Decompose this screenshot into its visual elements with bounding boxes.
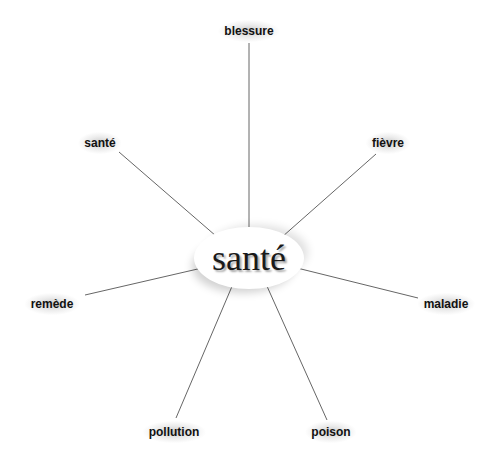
branch-label-sante: santé <box>78 132 121 154</box>
connector-fievre <box>282 154 376 237</box>
branch-label-remede: remède <box>25 293 80 315</box>
center-word: santé <box>194 227 304 289</box>
word-web-diagram: santé blessure santé fièvre remède malad… <box>0 0 493 467</box>
connector-sante <box>119 152 216 236</box>
center-node: santé <box>194 227 304 289</box>
connector-poison <box>266 284 327 420</box>
branch-label-blessure: blessure <box>218 20 279 42</box>
branch-label-pollution: pollution <box>143 421 206 443</box>
branch-label-maladie: maladie <box>418 293 475 315</box>
connector-remede <box>85 268 202 295</box>
connector-pollution <box>176 284 233 418</box>
branch-label-poison: poison <box>305 421 356 443</box>
connector-maladie <box>297 268 418 298</box>
branch-label-fievre: fièvre <box>366 132 410 154</box>
